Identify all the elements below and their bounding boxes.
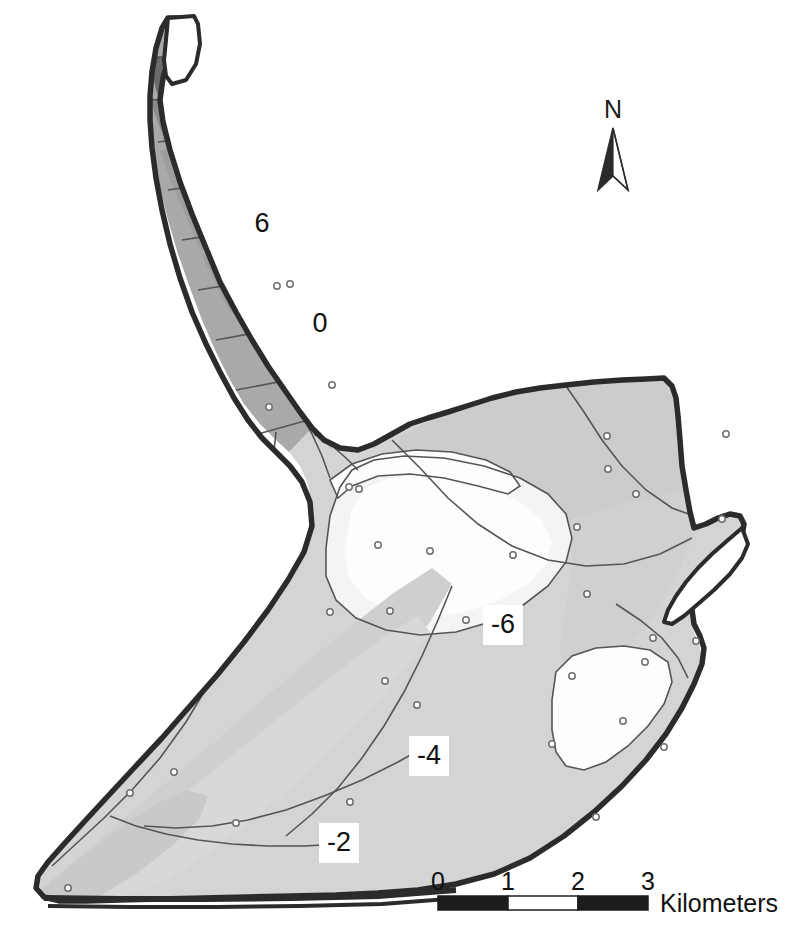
sample-point-marker <box>329 382 335 388</box>
sample-point-marker <box>719 516 725 522</box>
sample-point-marker <box>633 491 639 497</box>
sample-point-marker <box>650 635 656 641</box>
scale-bar-segment <box>578 896 648 910</box>
sample-point-marker <box>463 617 469 623</box>
sample-point-marker <box>347 799 353 805</box>
sample-point-marker <box>427 548 433 554</box>
sample-point-marker <box>605 466 611 472</box>
sample-point-marker <box>375 542 381 548</box>
sample-point-marker <box>510 552 516 558</box>
north-arrow: N <box>598 95 628 190</box>
sample-point-marker <box>569 673 575 679</box>
scale-bar-tick-label: 3 <box>641 867 655 895</box>
contour-label-label-6: 6 <box>254 208 269 238</box>
sample-point-marker <box>574 524 580 530</box>
scale-bar-tick-label: 2 <box>571 867 585 895</box>
sample-point-marker <box>65 885 71 891</box>
sample-point-marker <box>346 484 352 490</box>
sample-point-marker <box>287 281 293 287</box>
sample-point-marker <box>171 769 177 775</box>
map-canvas: 60-6-4-2 N 0123 Kilometers <box>0 0 796 932</box>
scale-bar-tick-label: 0 <box>431 867 445 895</box>
scale-bar-segment <box>438 896 508 910</box>
contour-label-label-n2: -2 <box>327 827 351 857</box>
sample-point-marker <box>356 486 362 492</box>
contour-label-label-n4: -4 <box>417 740 441 770</box>
map-svg: 60-6-4-2 N 0123 Kilometers <box>0 0 796 932</box>
contour-label-label-0: 0 <box>312 308 327 338</box>
scale-bar-segments <box>438 896 648 910</box>
sample-point-marker <box>620 718 626 724</box>
sample-point-marker <box>723 431 729 437</box>
coastline-north-notch <box>164 16 200 84</box>
scale-bar-tick-label: 1 <box>501 867 515 895</box>
contour-label-label-n6: -6 <box>491 609 515 639</box>
sample-point-marker <box>549 741 555 747</box>
sample-point-marker <box>642 659 648 665</box>
sample-point-marker <box>233 820 239 826</box>
scale-bar-unit-label: Kilometers <box>660 889 778 917</box>
scale-bar-segment <box>508 896 578 910</box>
north-arrow-label: N <box>604 95 622 123</box>
contour-line <box>700 400 726 518</box>
sample-point-marker <box>274 283 280 289</box>
sample-point-marker <box>266 404 272 410</box>
sample-point-marker <box>604 433 610 439</box>
sample-point-marker <box>661 744 667 750</box>
sample-point-marker <box>327 609 333 615</box>
sample-point-marker <box>593 814 599 820</box>
sample-point-marker <box>584 591 590 597</box>
sample-point-marker <box>414 702 420 708</box>
sample-point-marker <box>382 678 388 684</box>
sample-point-marker <box>387 608 393 614</box>
sample-point-marker <box>127 790 133 796</box>
sample-point-marker <box>693 638 699 644</box>
